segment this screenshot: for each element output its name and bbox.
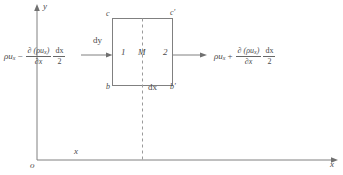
inflow-derivative-denominator: ∂x (33, 57, 45, 66)
y-axis-arrowhead (34, 4, 40, 11)
outflow-derivative-denominator: ∂x (243, 57, 255, 66)
outflow-operator: + (226, 51, 235, 61)
inflow-operator: − (16, 51, 25, 61)
outflow-derivative-numerator: ∂ (ρux) (236, 46, 262, 56)
origin-label: o (30, 161, 35, 170)
x-axis-label: x (330, 160, 334, 169)
inflow-base-symbol: ρu (4, 51, 13, 61)
outflow-step-numerator: dx (263, 46, 275, 55)
inflow-arrowhead (106, 53, 113, 58)
face-label-right: 2 (163, 48, 168, 57)
y-axis-label: y (43, 2, 47, 11)
flux-diagram-figure: y x x o c c′ b b′ 1 M 2 dy dx ρux − ∂ (ρ… (0, 0, 343, 175)
outflow-arrowhead (200, 53, 207, 58)
inflow-derivative-fraction: ∂ (ρux) ∂x (26, 46, 52, 66)
height-label-dy: dy (93, 36, 102, 45)
inflow-step-fraction: dx 2 (53, 46, 65, 65)
outflow-derivative-numerator-tail: ) (257, 46, 260, 55)
outflow-base-term: ρux (214, 51, 226, 61)
outflow-flux-formula: ρux + ∂ (ρux) ∂x dx 2 (214, 46, 276, 66)
outflow-step-fraction: dx 2 (263, 46, 275, 65)
width-label-dx: dx (148, 83, 157, 92)
inflow-step-numerator: dx (53, 46, 65, 55)
corner-label-c-prime: c′ (170, 9, 175, 17)
center-point-label: M (138, 48, 146, 57)
corner-label-b: b (106, 83, 110, 91)
inflow-base-term: ρux (4, 51, 16, 61)
inflow-derivative-numerator-head: ∂ (ρu (28, 46, 44, 55)
outflow-derivative-fraction: ∂ (ρux) ∂x (236, 46, 262, 66)
inflow-derivative-numerator-tail: ) (47, 46, 50, 55)
corner-label-c: c (106, 10, 110, 18)
outflow-base-symbol: ρu (214, 51, 223, 61)
inflow-step-denominator: 2 (55, 57, 63, 66)
x-axis-mid-label: x (74, 147, 78, 156)
outflow-step-denominator: 2 (265, 57, 273, 66)
outflow-derivative-numerator-head: ∂ (ρu (238, 46, 254, 55)
corner-label-b-prime: b′ (170, 83, 176, 91)
inflow-flux-formula: ρux − ∂ (ρux) ∂x dx 2 (4, 46, 66, 66)
face-label-left: 1 (121, 48, 126, 57)
inflow-derivative-numerator: ∂ (ρux) (26, 46, 52, 56)
